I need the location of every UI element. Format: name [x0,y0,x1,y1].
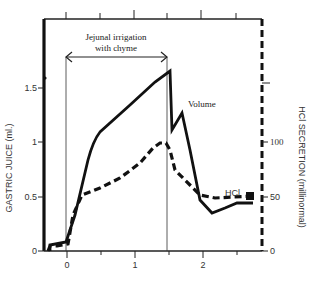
hcl-label: HCl [225,188,240,198]
left-axis-dot [43,76,46,79]
left-tick-label: 1.5 [24,83,37,93]
irrigation-label-line1: Jejunal irrigation [85,32,147,42]
bottom-tick-label: 0 [64,260,69,270]
right-tick-label: 100 [270,137,284,147]
right-tick-label: 50 [270,192,280,202]
chart-canvas: 0 0.5 1 1.5 GASTRIC JUICE (ml.) 100 50 0… [0,0,309,286]
bottom-tick-label: 2 [200,260,205,270]
left-tick-label: 0.5 [24,192,37,202]
volume-label: Volume [188,99,216,109]
right-tick-label: 0 [270,246,275,256]
left-axis-title: GASTRIC JUICE (ml.) [4,123,14,212]
volume-series-line [50,71,253,251]
left-tick-label: 1 [32,137,37,147]
bottom-tick-label: 1 [132,260,137,270]
hcl-series-end-marker [246,192,254,200]
right-axis-title: HCl SECRETION (millinormal) [297,106,307,228]
irrigation-label-line2: with chyme [95,43,137,53]
left-tick-label: 0 [32,246,37,256]
